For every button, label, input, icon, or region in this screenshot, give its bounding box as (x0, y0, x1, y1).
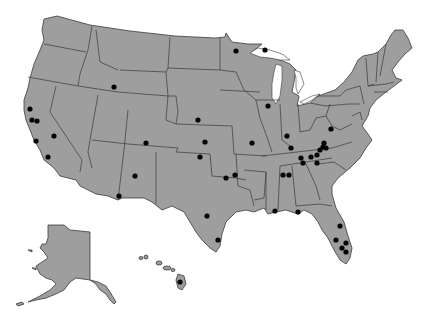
map-canvas (0, 0, 423, 319)
location-marker[interactable] (197, 154, 202, 159)
location-marker[interactable] (343, 249, 348, 254)
location-marker[interactable] (215, 237, 220, 242)
alaska-inset (16, 225, 116, 306)
location-marker[interactable] (323, 145, 328, 150)
location-marker[interactable] (337, 223, 342, 228)
location-marker[interactable] (298, 155, 303, 160)
location-marker[interactable] (314, 160, 319, 165)
us-map (0, 0, 423, 319)
location-marker[interactable] (204, 213, 209, 218)
location-marker[interactable] (232, 172, 237, 177)
location-marker[interactable] (295, 209, 300, 214)
location-marker[interactable] (116, 193, 121, 198)
location-marker[interactable] (34, 118, 39, 123)
location-marker[interactable] (249, 140, 254, 145)
location-marker[interactable] (339, 245, 344, 250)
location-marker[interactable] (202, 139, 207, 144)
location-marker[interactable] (288, 145, 293, 150)
location-marker[interactable] (51, 133, 56, 138)
location-marker[interactable] (321, 140, 326, 145)
location-marker[interactable] (280, 172, 285, 177)
location-marker[interactable] (272, 208, 277, 213)
location-marker[interactable] (45, 154, 50, 159)
location-marker[interactable] (33, 138, 38, 143)
location-marker[interactable] (300, 160, 305, 165)
location-marker[interactable] (343, 240, 348, 245)
location-marker[interactable] (265, 103, 270, 108)
location-marker[interactable] (223, 175, 228, 180)
location-marker[interactable] (27, 106, 32, 111)
location-marker[interactable] (286, 172, 291, 177)
location-marker[interactable] (111, 84, 116, 89)
location-marker[interactable] (308, 154, 313, 159)
hawaii-inset (139, 255, 186, 290)
alaska-islands (16, 250, 36, 306)
location-marker[interactable] (29, 117, 34, 122)
location-marker[interactable] (132, 173, 137, 178)
location-marker[interactable] (328, 126, 333, 131)
location-marker[interactable] (233, 48, 238, 53)
location-marker[interactable] (333, 237, 338, 242)
location-marker[interactable] (177, 279, 182, 284)
alaska (28, 225, 116, 304)
location-marker[interactable] (262, 47, 267, 52)
contiguous-us-landmass (24, 16, 412, 264)
location-marker[interactable] (284, 133, 289, 138)
location-marker[interactable] (143, 140, 148, 145)
location-marker[interactable] (314, 152, 319, 157)
location-marker[interactable] (195, 117, 200, 122)
